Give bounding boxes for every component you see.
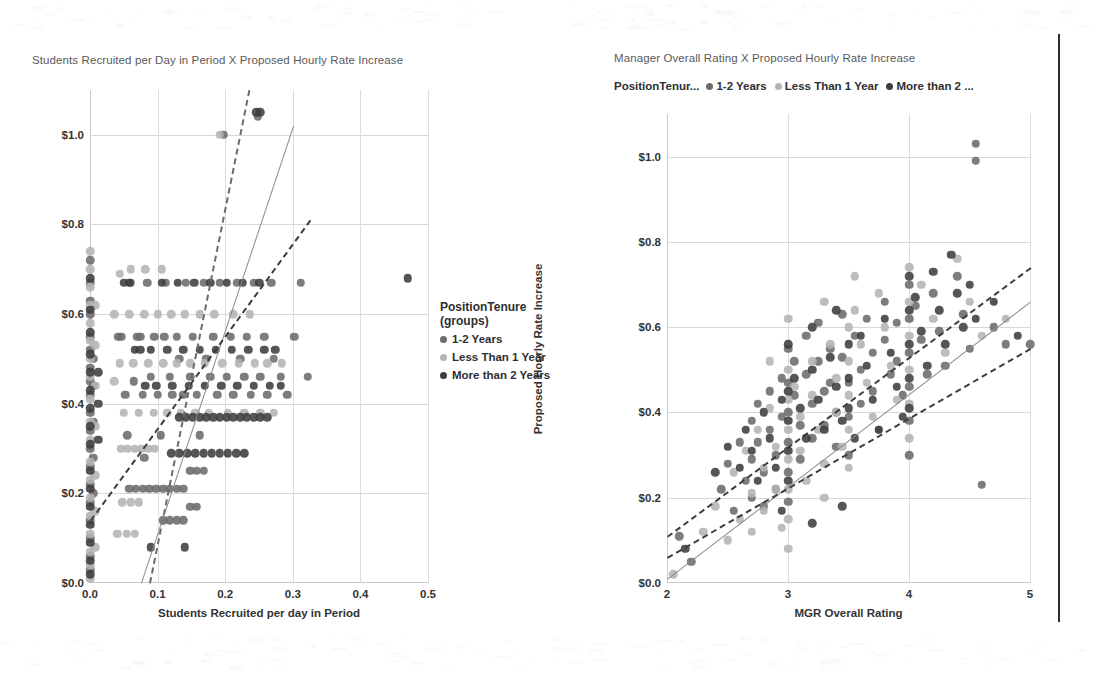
- scatter-point[interactable]: [195, 431, 204, 440]
- scatter-point[interactable]: [681, 545, 690, 554]
- scatter-point[interactable]: [905, 331, 914, 340]
- scatter-point[interactable]: [784, 366, 793, 375]
- scatter-point[interactable]: [86, 422, 95, 431]
- scatter-point[interactable]: [850, 272, 859, 281]
- scatter-point[interactable]: [844, 391, 853, 400]
- scatter-point[interactable]: [844, 464, 853, 473]
- scatter-point[interactable]: [784, 485, 793, 494]
- scatter-point[interactable]: [213, 391, 222, 400]
- scatter-point[interactable]: [149, 408, 158, 417]
- scatter-point[interactable]: [117, 332, 126, 341]
- scatter-point[interactable]: [905, 272, 914, 281]
- scatter-point[interactable]: [905, 280, 914, 289]
- scatter-point[interactable]: [947, 250, 956, 259]
- scatter-point[interactable]: [147, 373, 156, 382]
- scatter-point[interactable]: [820, 425, 829, 434]
- scatter-point[interactable]: [403, 274, 412, 283]
- scatter-point[interactable]: [735, 515, 744, 524]
- scatter-point[interactable]: [86, 538, 95, 547]
- scatter-point[interactable]: [278, 359, 287, 368]
- scatter-point[interactable]: [195, 310, 204, 319]
- scatter-point[interactable]: [953, 289, 962, 298]
- scatter-point[interactable]: [826, 340, 835, 349]
- scatter-point[interactable]: [229, 391, 238, 400]
- scatter-point[interactable]: [754, 438, 763, 447]
- scatter-point[interactable]: [784, 387, 793, 396]
- scatter-point[interactable]: [754, 400, 763, 409]
- scatter-point[interactable]: [245, 310, 254, 319]
- scatter-point[interactable]: [802, 476, 811, 485]
- scatter-point[interactable]: [186, 359, 195, 368]
- scatter-point[interactable]: [935, 306, 944, 315]
- scatter-point[interactable]: [168, 391, 177, 400]
- scatter-point[interactable]: [86, 458, 95, 467]
- scatter-point[interactable]: [172, 359, 181, 368]
- scatter-point[interactable]: [260, 332, 269, 341]
- scatter-point[interactable]: [844, 451, 853, 460]
- scatter-point[interactable]: [86, 570, 95, 579]
- scatter-point[interactable]: [862, 361, 871, 370]
- scatter-point[interactable]: [129, 359, 138, 368]
- scatter-point[interactable]: [86, 350, 95, 359]
- scatter-point[interactable]: [256, 108, 265, 117]
- scatter-point[interactable]: [222, 373, 231, 382]
- legend-item-less-than-1-year-right[interactable]: Less Than 1 Year: [775, 80, 879, 92]
- scatter-point[interactable]: [290, 332, 299, 341]
- scatter-point[interactable]: [820, 387, 829, 396]
- scatter-point[interactable]: [796, 455, 805, 464]
- scatter-point[interactable]: [86, 556, 95, 565]
- scatter-point[interactable]: [826, 353, 835, 362]
- scatter-point[interactable]: [899, 412, 908, 421]
- scatter-point[interactable]: [844, 323, 853, 332]
- scatter-point[interactable]: [206, 278, 215, 287]
- scatter-point[interactable]: [86, 520, 95, 529]
- scatter-point[interactable]: [255, 278, 264, 287]
- scatter-point[interactable]: [120, 408, 129, 417]
- scatter-point[interactable]: [917, 336, 926, 345]
- scatter-point[interactable]: [110, 377, 119, 386]
- scatter-point[interactable]: [778, 523, 787, 532]
- scatter-point[interactable]: [222, 278, 231, 287]
- scatter-point[interactable]: [760, 506, 769, 515]
- scatter-point[interactable]: [141, 382, 150, 391]
- scatter-point[interactable]: [136, 346, 145, 355]
- scatter-point[interactable]: [130, 529, 139, 538]
- scatter-point[interactable]: [784, 476, 793, 485]
- scatter-point[interactable]: [141, 265, 150, 274]
- scatter-point[interactable]: [125, 278, 134, 287]
- scatter-point[interactable]: [887, 370, 896, 379]
- scatter-point[interactable]: [86, 467, 95, 476]
- scatter-point[interactable]: [159, 359, 168, 368]
- scatter-point[interactable]: [271, 346, 280, 355]
- scatter-point[interactable]: [276, 373, 285, 382]
- scatter-point[interactable]: [796, 404, 805, 413]
- scatter-point[interactable]: [94, 435, 103, 444]
- scatter-point[interactable]: [881, 297, 890, 306]
- scatter-point[interactable]: [790, 357, 799, 366]
- scatter-point[interactable]: [796, 447, 805, 456]
- scatter-point[interactable]: [209, 332, 218, 341]
- scatter-point[interactable]: [747, 528, 756, 537]
- scatter-point[interactable]: [168, 382, 177, 391]
- scatter-point[interactable]: [905, 349, 914, 358]
- scatter-point[interactable]: [971, 314, 980, 323]
- scatter-point[interactable]: [216, 131, 225, 140]
- scatter-point[interactable]: [875, 425, 884, 434]
- scatter-point[interactable]: [193, 503, 202, 512]
- scatter-point[interactable]: [174, 278, 183, 287]
- scatter-point[interactable]: [86, 485, 95, 494]
- scatter-point[interactable]: [669, 570, 678, 579]
- scatter-point[interactable]: [820, 459, 829, 468]
- scatter-point[interactable]: [180, 543, 189, 552]
- scatter-point[interactable]: [856, 340, 865, 349]
- scatter-point[interactable]: [784, 545, 793, 554]
- scatter-point[interactable]: [989, 323, 998, 332]
- scatter-point[interactable]: [263, 391, 272, 400]
- scatter-point[interactable]: [881, 323, 890, 332]
- scatter-point[interactable]: [747, 417, 756, 426]
- scatter-point[interactable]: [856, 331, 865, 340]
- scatter-point[interactable]: [766, 425, 775, 434]
- scatter-point[interactable]: [234, 359, 243, 368]
- scatter-point[interactable]: [844, 374, 853, 383]
- scatter-point[interactable]: [1002, 340, 1011, 349]
